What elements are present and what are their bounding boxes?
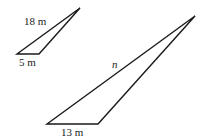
small-base-label: 5 m [19,56,36,68]
large-base-label: 13 m [61,126,84,138]
similar-triangles-diagram: 18 m 5 m n 13 m [0,0,206,138]
large-hypotenuse-label: n [112,58,118,70]
large-triangle [47,16,195,124]
small-hypotenuse-label: 18 m [24,15,47,27]
